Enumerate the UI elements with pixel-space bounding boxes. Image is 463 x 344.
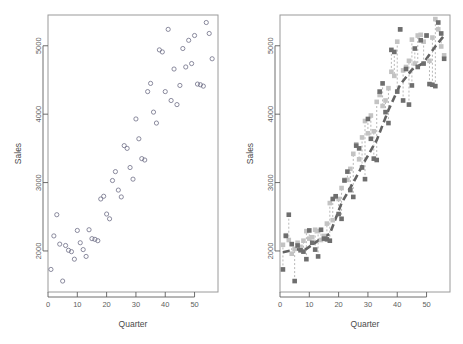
svg-text:Sales: Sales [245,143,255,164]
svg-text:40: 40 [161,300,169,309]
svg-text:30: 30 [364,300,372,309]
svg-text:10: 10 [305,300,313,309]
right-plot-svg: 2000300040005000 01020304050 QuarterSale… [232,0,463,344]
svg-text:5000: 5000 [267,37,276,54]
svg-text:Quarter: Quarter [351,319,380,329]
svg-text:2000: 2000 [267,243,276,260]
panel-right-scatter: 2000300040005000 01020304050 QuarterSale… [232,0,463,344]
svg-text:50: 50 [422,300,430,309]
svg-text:0: 0 [46,300,50,309]
svg-text:30: 30 [132,300,140,309]
svg-text:10: 10 [73,300,81,309]
svg-text:0: 0 [278,300,282,309]
svg-text:40: 40 [393,300,401,309]
svg-text:50: 50 [190,300,198,309]
svg-text:Quarter: Quarter [119,319,148,329]
svg-text:4000: 4000 [35,106,44,123]
svg-text:4000: 4000 [267,106,276,123]
panel-left-scatter: 2000300040005000 01020304050 QuarterSale… [0,0,231,344]
left-plot-svg: 2000300040005000 01020304050 QuarterSale… [0,0,231,344]
svg-text:20: 20 [334,300,342,309]
figure-canvas: 2000300040005000 01020304050 QuarterSale… [0,0,463,344]
svg-text:3000: 3000 [35,174,44,191]
svg-text:5000: 5000 [35,37,44,54]
svg-text:2000: 2000 [35,243,44,260]
svg-text:Sales: Sales [13,143,23,164]
svg-text:3000: 3000 [267,174,276,191]
svg-text:20: 20 [102,300,110,309]
